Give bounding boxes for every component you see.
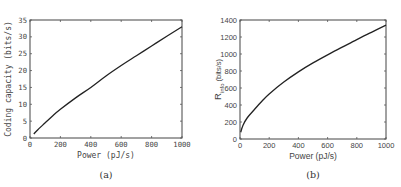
y-tick-label: 25	[18, 49, 27, 58]
y-tick-label: 400	[224, 101, 237, 110]
plot-area	[240, 20, 386, 139]
y-tick-label: 0	[233, 135, 237, 144]
x-tick-label: 1000	[173, 140, 190, 149]
y-tick-label: 10	[18, 100, 27, 109]
data-line	[241, 25, 386, 132]
chart-panel-b: 0200400600800100002004006008001000120014…	[212, 16, 394, 181]
x-axis: 02004006008001000	[28, 20, 191, 149]
x-tick-label: 600	[321, 141, 334, 150]
x-tick-label: 1000	[378, 141, 395, 150]
y-tick-label: 200	[224, 118, 237, 127]
x-tick-label: 600	[115, 140, 128, 149]
y-axis-label: Coding capacity (bits/s)	[4, 21, 13, 137]
chart-panel-a: 0200400600800100005101520253035Power (pJ…	[4, 16, 191, 181]
y-axis: 05101520253035	[18, 16, 182, 143]
x-tick-label: 0	[28, 140, 32, 149]
y-tick-label: 30	[18, 32, 27, 41]
y-tick-label: 0	[23, 134, 27, 143]
figure: 0200400600800100005101520253035Power (pJ…	[0, 0, 401, 187]
x-tick-label: 200	[54, 140, 67, 149]
x-tick-label: 200	[263, 141, 276, 150]
x-tick-label: 400	[84, 140, 97, 149]
y-tick-label: 15	[18, 83, 27, 92]
y-tick-label: 600	[224, 84, 237, 93]
y-tick-label: 1400	[220, 16, 237, 25]
panel-label: (a)	[99, 169, 112, 180]
plot-area	[30, 20, 182, 138]
data-line	[34, 27, 182, 134]
x-tick-label: 400	[292, 141, 305, 150]
y-tick-label: 5	[23, 117, 27, 126]
x-tick-label: 800	[145, 140, 158, 149]
x-axis-label: Power (pJ/s)	[77, 151, 135, 160]
x-axis: 02004006008001000	[238, 20, 394, 150]
x-tick-label: 0	[238, 141, 242, 150]
x-axis-label: Power (pJ/s)	[289, 151, 337, 161]
panel-label: (b)	[306, 169, 320, 180]
y-tick-label: 800	[224, 67, 237, 76]
y-tick-label: 20	[18, 66, 27, 75]
y-axis-label: Rinfo(bits/s)	[212, 58, 225, 100]
y-tick-label: 35	[18, 16, 27, 25]
y-tick-label: 1200	[220, 33, 237, 42]
y-axis: 0200400600800100012001400	[220, 16, 386, 144]
x-tick-label: 800	[351, 141, 364, 150]
y-tick-label: 1000	[220, 50, 237, 59]
